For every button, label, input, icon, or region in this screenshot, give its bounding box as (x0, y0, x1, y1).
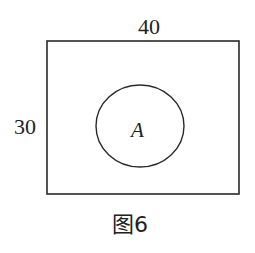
height-label: 30 (14, 116, 36, 138)
width-label: 40 (138, 16, 160, 38)
region-label: A (131, 120, 144, 141)
figure-caption: 图6 (112, 214, 148, 236)
